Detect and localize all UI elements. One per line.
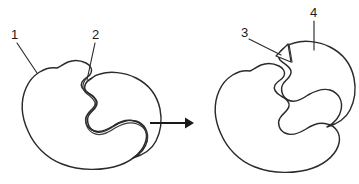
- diagram-canvas: [0, 0, 359, 184]
- callout-label-1: 1: [11, 28, 18, 41]
- lower-left-blob-outline: [22, 61, 146, 170]
- arrow-head: [185, 118, 194, 129]
- left-panel-bound-complex: [17, 43, 161, 169]
- right-panel-dissociated-complex: [215, 21, 355, 172]
- callout-label-3: 3: [241, 26, 248, 39]
- leader-line-3: [249, 39, 281, 55]
- callout-label-2: 2: [92, 28, 99, 41]
- callout-label-4: 4: [310, 6, 317, 19]
- upper-right-blob-outline: [85, 72, 161, 158]
- leader-line-2: [87, 43, 95, 80]
- transformation-arrow: [150, 118, 194, 129]
- right-lower-blob-outline: [215, 64, 339, 173]
- leader-line-1: [17, 43, 37, 73]
- interlocking-seam: [83, 75, 148, 142]
- figure-root: 1 2 3 4: [0, 0, 359, 184]
